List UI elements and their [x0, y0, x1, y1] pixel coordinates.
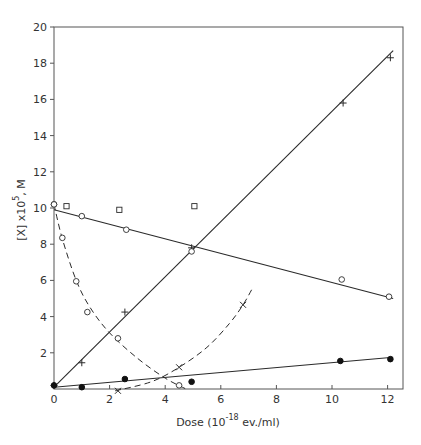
filled-circle-marker	[189, 379, 195, 385]
open-square-marker	[192, 204, 197, 209]
open-circle-marker	[176, 383, 182, 389]
y-tick-label: 20	[33, 21, 47, 34]
plus-marker	[340, 100, 347, 107]
cross-marker	[176, 364, 182, 370]
fit-line	[54, 51, 393, 388]
y-tick-label: 18	[33, 57, 47, 70]
x-axis-title: Dose (10-18 ev./ml)	[176, 413, 280, 429]
open-circle-marker	[85, 309, 91, 315]
series-lines	[54, 51, 393, 391]
x-tick-label: 10	[325, 393, 339, 406]
x-tick-label: 8	[273, 393, 280, 406]
filled-circle-marker	[122, 376, 128, 382]
x-tick-label: 6	[217, 393, 224, 406]
y-axis: 2468101214161820	[33, 21, 54, 360]
fit-line	[54, 210, 393, 299]
open-circle-marker	[60, 235, 66, 241]
cross-marker	[240, 302, 246, 308]
filled-circle-marker	[338, 358, 344, 364]
y-tick-label: 10	[33, 202, 47, 215]
open-square-marker	[64, 204, 69, 209]
filled-circle-marker	[51, 383, 57, 389]
filled-circle-marker	[388, 356, 394, 362]
open-circle-marker	[51, 202, 57, 208]
y-tick-label: 14	[33, 130, 47, 143]
y-tick-label: 4	[40, 311, 47, 324]
dashed-curve	[54, 204, 186, 389]
open-circle-marker	[339, 277, 345, 283]
y-axis-title: [X] x105, M	[12, 179, 28, 241]
x-tick-label: 12	[381, 393, 395, 406]
x-axis: 024681012	[51, 385, 395, 406]
y-tick-label: 16	[33, 93, 47, 106]
open-circle-marker	[189, 249, 195, 255]
x-tick-label: 0	[51, 393, 58, 406]
y-tick-label: 6	[40, 274, 47, 287]
filled-circle-marker	[79, 384, 85, 390]
series-markers	[51, 54, 394, 394]
open-circle-marker	[386, 294, 392, 300]
open-circle-marker	[123, 227, 129, 233]
y-tick-label: 2	[40, 347, 47, 360]
open-circle-marker	[115, 336, 121, 342]
open-circle-marker	[79, 213, 85, 219]
x-tick-label: 2	[106, 393, 113, 406]
chart: 2468101214161820 024681012 Dose (10-18 e…	[0, 0, 421, 445]
y-tick-label: 8	[40, 238, 47, 251]
open-square-marker	[117, 207, 122, 212]
y-tick-label: 12	[33, 166, 47, 179]
x-tick-label: 4	[162, 393, 169, 406]
open-circle-marker	[73, 279, 79, 285]
plus-marker	[78, 359, 85, 366]
